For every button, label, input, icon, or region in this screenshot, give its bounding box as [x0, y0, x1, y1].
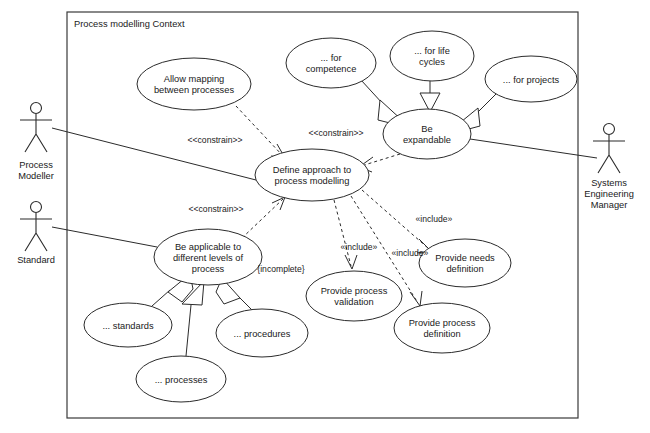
actor-label: Standard	[17, 255, 55, 265]
use-case-label: cycles	[419, 57, 445, 67]
association-standard-be-applicable	[52, 227, 157, 247]
actor-label: Systems	[591, 178, 627, 188]
use-case-label: between processes	[154, 85, 234, 95]
use-case-define-approach[interactable]: Define approach toprocess modelling	[255, 149, 369, 201]
use-case-ellipse	[137, 58, 251, 110]
use-case-label: definition	[446, 264, 483, 274]
use-case-layer: Allow mappingbetween processes... forcom…	[84, 31, 577, 402]
use-case-label: process modelling	[275, 176, 350, 186]
actor-head-icon	[31, 202, 42, 213]
dependency-allow-mapping-define-approach	[236, 106, 283, 156]
actor-head-icon	[31, 103, 42, 114]
use-case-label: expandable	[403, 135, 451, 145]
use-case-allow-mapping[interactable]: Allow mappingbetween processes	[137, 58, 251, 110]
generalization-processes-line	[186, 305, 191, 356]
generalization-standards-line	[152, 290, 170, 306]
edge-label-include-process-definition: «include»	[392, 248, 429, 258]
use-case-label: ... for projects	[503, 75, 560, 85]
actor-label: Manager	[591, 200, 628, 210]
boundary-title: Process modelling Context	[74, 19, 185, 29]
use-case-ellipse	[394, 303, 490, 353]
use-case-ellipse	[306, 271, 402, 321]
use-case-standards[interactable]: ... standards	[84, 303, 172, 347]
actor-label: Modeller	[18, 171, 54, 181]
use-case-label: ... procedures	[234, 329, 291, 339]
use-case-provide-needs-definition[interactable]: Provide needsdefinition	[419, 239, 511, 287]
use-case-label: Allow mapping	[164, 74, 224, 84]
edge-label-include-needs-definition: «include»	[416, 214, 453, 224]
use-case-label: Be	[421, 124, 432, 134]
use-case-label: process	[192, 264, 225, 274]
actor-head-icon	[604, 124, 615, 135]
actor-label: Process	[19, 160, 53, 170]
use-case-for-competence[interactable]: ... forcompetence	[286, 38, 376, 88]
use-case-label: validation	[334, 297, 373, 307]
edge-label-constrain-be-expandable: <<constrain>>	[309, 128, 364, 138]
actor-body-icon	[593, 135, 625, 173]
diagram-canvas: Process modelling Context	[0, 0, 650, 433]
use-case-label: ... processes	[155, 375, 208, 385]
generalization-projects-line	[478, 94, 496, 112]
actor-body-icon	[20, 114, 52, 152]
use-case-label: Provide needs	[435, 253, 495, 263]
use-case-provide-process-definition[interactable]: Provide processdefinition	[394, 303, 490, 353]
use-case-processes[interactable]: ... processes	[136, 356, 226, 402]
use-case-label: Define approach to	[273, 165, 352, 175]
use-case-procedures[interactable]: ... procedures	[216, 309, 308, 357]
use-case-label: Provide process	[321, 286, 388, 296]
use-case-label: Provide process	[409, 318, 476, 328]
use-case-label: Be applicable to	[175, 242, 241, 252]
use-case-be-applicable[interactable]: Be applicable todifferent levels ofproce…	[154, 229, 262, 285]
use-case-ellipse	[419, 239, 511, 287]
use-case-ellipse	[255, 149, 369, 201]
dependency-include-process-validation-arrowhead	[345, 255, 357, 269]
use-case-diagram: Process modelling Context	[0, 0, 650, 433]
edge-label-include-process-validation: «include»	[341, 242, 378, 252]
use-case-label: competence	[306, 64, 357, 74]
use-case-ellipse	[383, 109, 471, 159]
edge-label-constrain-allow-mapping: <<constrain>>	[188, 135, 243, 145]
actor-standard[interactable]: Standard	[17, 202, 55, 266]
edge-label-incomplete-constraint: {incomplete}	[257, 264, 304, 274]
actor-label: Engineering	[584, 189, 634, 199]
actor-systems-engineering-manager[interactable]: SystemsEngineeringManager	[584, 124, 634, 211]
use-case-label: different levels of	[173, 253, 244, 263]
use-case-label: ... for	[320, 53, 341, 63]
use-case-label: ... standards	[102, 321, 154, 331]
actor-process-modeller[interactable]: ProcessModeller	[18, 103, 54, 182]
use-case-provide-process-validation[interactable]: Provide processvalidation	[306, 271, 402, 321]
dependency-include-process-validation	[334, 200, 351, 266]
use-case-ellipse	[390, 31, 474, 81]
use-case-label: ... for life	[414, 46, 450, 56]
actor-body-icon	[20, 213, 52, 251]
dependency-be-expandable-define-approach	[361, 154, 400, 166]
use-case-for-projects[interactable]: ... for projects	[485, 56, 577, 102]
use-case-for-life-cycles[interactable]: ... for lifecycles	[390, 31, 474, 81]
use-case-ellipse	[286, 38, 376, 88]
use-case-label: definition	[423, 329, 460, 339]
dependency-be-applicable-define-approach	[242, 199, 283, 238]
edge-label-constrain-be-applicable: <<constrain>>	[189, 204, 244, 214]
use-case-be-expandable[interactable]: Beexpandable	[383, 109, 471, 159]
